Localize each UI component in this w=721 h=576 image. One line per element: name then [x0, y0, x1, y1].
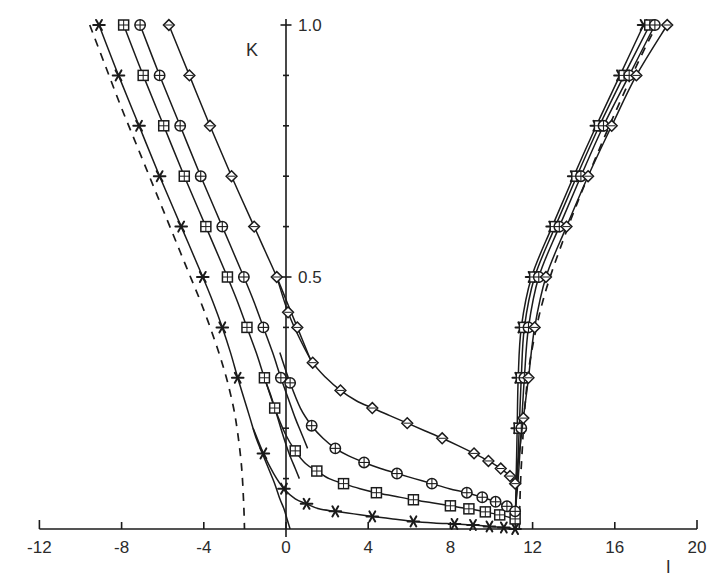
series-line-lower-branch	[280, 353, 515, 512]
x-axis-name: l	[666, 557, 670, 576]
series-line-lower-branch	[253, 428, 515, 529]
x-tick-label: -4	[196, 538, 211, 557]
series-line-right-branch	[515, 25, 667, 484]
series-line-right-branch	[515, 25, 655, 511]
series-markers-diamond	[163, 20, 672, 489]
y-axis-name: K	[246, 40, 258, 60]
x-tick-label: 12	[523, 538, 542, 557]
y-tick-label: 0.5	[298, 268, 322, 287]
series-diamond	[163, 20, 672, 489]
dashed-curves-layer	[90, 25, 657, 529]
series-line-left-branch	[140, 25, 307, 448]
data-series-layer	[93, 20, 672, 534]
axes-layer: -12-8-40481216200.51.0	[27, 16, 706, 557]
x-tick-label: 0	[281, 538, 290, 557]
series-markers-star	[93, 20, 649, 534]
x-tick-label: 8	[446, 538, 455, 557]
x-tick-label: 4	[363, 538, 372, 557]
series-circle	[135, 20, 660, 517]
plot-svg: -12-8-40481216200.51.0 Kl	[0, 0, 721, 576]
figure-container: -12-8-40481216200.51.0 Kl	[0, 0, 721, 576]
y-tick-label: 1.0	[298, 16, 322, 35]
x-tick-label: -12	[27, 538, 52, 557]
series-markers-circle	[135, 20, 660, 517]
x-tick-label: -8	[114, 538, 129, 557]
x-tick-label: 20	[688, 538, 707, 557]
dashed-asymptote-left	[90, 25, 245, 529]
x-tick-label: 16	[605, 538, 624, 557]
series-star	[93, 20, 649, 534]
